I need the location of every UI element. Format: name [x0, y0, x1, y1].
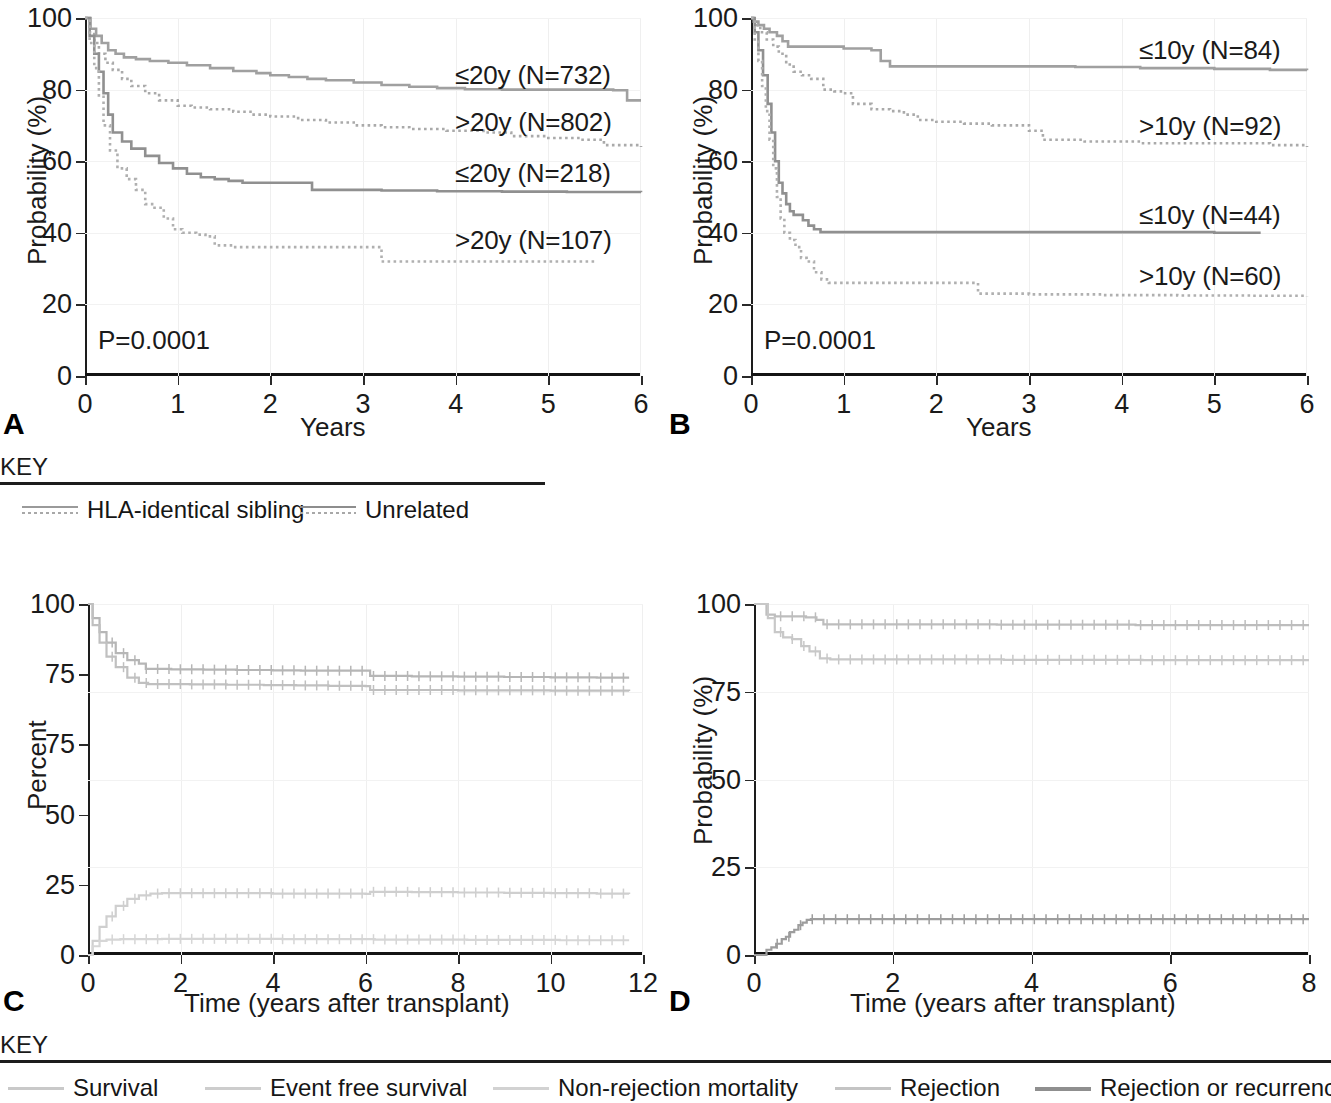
- x-tick: [181, 955, 183, 964]
- x-tick-label: 8: [1301, 968, 1316, 999]
- key-item-label: Rejection: [900, 1074, 1000, 1102]
- panel-b-p-value: P=0.0001: [764, 325, 876, 356]
- y-tick: [76, 376, 85, 378]
- x-tick-label: 0: [80, 968, 95, 999]
- x-tick: [844, 376, 846, 385]
- y-tick: [79, 955, 88, 957]
- key-item-survival: Survival: [8, 1071, 158, 1103]
- y-tick-label: 75: [711, 676, 741, 707]
- y-tick-label: 75: [45, 659, 75, 690]
- panel-c-letter: C: [3, 984, 25, 1018]
- censor-marks: [781, 611, 1304, 630]
- x-tick: [88, 955, 90, 964]
- x-tick: [366, 955, 368, 964]
- panel-b-series-label-2: ≤10y (N=44): [1139, 200, 1280, 231]
- x-tick: [85, 376, 87, 385]
- key-block-bottom: KEY Survival Event free survival Non-rej…: [0, 1033, 1331, 1103]
- panel-a-series-label-0: ≤20y (N=732): [455, 60, 611, 91]
- y-tick-label: 60: [42, 146, 72, 177]
- panel-b-curves: [751, 18, 1307, 376]
- x-tick: [1307, 376, 1309, 385]
- curve-rejection: [88, 892, 629, 955]
- x-tick-label: 0: [77, 389, 92, 420]
- curve-survival: [754, 604, 1309, 625]
- line-swatch-survival-icon: [8, 1081, 64, 1095]
- panel-a-p-value: P=0.0001: [98, 325, 210, 356]
- x-tick: [273, 955, 275, 964]
- key-row: Survival Event free survival Non-rejecti…: [0, 1071, 1331, 1103]
- panel-a: Probability (%) 100 80 60 40 20 0 0: [0, 0, 665, 455]
- key-item-non-rejection-mortality: Non-rejection mortality: [493, 1071, 798, 1103]
- key-item-rejection: Rejection: [835, 1071, 1000, 1103]
- panel-d: Probability (%) 100 75 50 25 0 0 2 4 6 8: [666, 560, 1331, 1030]
- x-tick: [1309, 955, 1311, 964]
- x-tick-label: 2: [929, 389, 944, 420]
- key-item-unrelated: Unrelated: [300, 493, 469, 527]
- y-tick-label: 20: [708, 289, 738, 320]
- y-tick-label: 80: [708, 74, 738, 105]
- y-tick-label: 0: [723, 361, 738, 392]
- x-tick: [641, 376, 643, 385]
- panel-c-x-axis-title: Time (years after transplant): [184, 988, 510, 1019]
- y-tick-label: 50: [45, 799, 75, 830]
- y-tick-label: 100: [696, 589, 741, 620]
- y-tick: [742, 90, 751, 92]
- y-tick: [745, 780, 754, 782]
- panel-b-series-label-1: >10y (N=92): [1139, 111, 1281, 142]
- x-tick-label: 0: [743, 389, 758, 420]
- key-divider: [0, 482, 545, 485]
- curve-event-free-survival: [754, 604, 1309, 660]
- x-tick: [751, 376, 753, 385]
- y-tick: [745, 604, 754, 606]
- y-tick-label: 25: [711, 852, 741, 883]
- panel-a-series-label-1: >20y (N=802): [455, 107, 612, 138]
- line-swatch-solid-dotted-icon: [22, 503, 78, 517]
- panel-b-series-label-3: >10y (N=60): [1139, 261, 1281, 292]
- y-tick: [745, 867, 754, 869]
- key-item-label: Event free survival: [270, 1074, 467, 1102]
- panel-d-curves: [754, 604, 1309, 955]
- x-tick-label: 1: [836, 389, 851, 420]
- key-item-label: Unrelated: [365, 496, 469, 524]
- key-title: KEY: [0, 455, 545, 479]
- x-tick: [1029, 376, 1031, 385]
- y-tick: [76, 304, 85, 306]
- x-tick-label: 10: [535, 968, 565, 999]
- y-tick: [79, 744, 88, 746]
- y-tick: [79, 885, 88, 887]
- panel-a-plot-area: 100 80 60 40 20 0 0 1 2 3 4 5 6 ≤20y (N=…: [85, 18, 641, 376]
- x-tick-label: 6: [1299, 389, 1314, 420]
- panel-d-letter: D: [669, 984, 691, 1018]
- key-item-rejection-or-recurrence: Rejection or recurrence: [1035, 1071, 1331, 1103]
- key-divider: [0, 1060, 1331, 1063]
- y-tick: [742, 376, 751, 378]
- key-item-event-free-survival: Event free survival: [205, 1071, 467, 1103]
- key-item-label: Non-rejection mortality: [558, 1074, 798, 1102]
- censor-marks: [112, 652, 623, 696]
- panel-c: Percent 100 75 75 50 25 0 0 2 4 6: [0, 560, 665, 1030]
- x-tick-label: 1: [170, 389, 185, 420]
- y-tick-label: 40: [708, 217, 738, 248]
- y-tick: [742, 304, 751, 306]
- x-tick: [754, 955, 756, 964]
- panel-b-series-label-0: ≤10y (N=84): [1139, 35, 1280, 66]
- panel-d-x-axis-title: Time (years after transplant): [850, 988, 1176, 1019]
- panel-d-plot-area: 100 75 50 25 0 0 2 4 6 8: [754, 604, 1309, 955]
- y-tick-label: 100: [27, 3, 72, 34]
- panel-c-plot-area: 100 75 75 50 25 0 0 2 4 6 8 10 12: [88, 604, 643, 955]
- y-tick-label: 40: [42, 217, 72, 248]
- y-tick: [742, 233, 751, 235]
- x-tick-label: 4: [448, 389, 463, 420]
- y-tick-label: 75: [45, 729, 75, 760]
- key-item-hla-identical-sibling: HLA-identical sibling: [22, 493, 304, 527]
- y-tick-label: 0: [57, 361, 72, 392]
- panel-b-letter: B: [669, 407, 691, 441]
- key-item-label: Rejection or recurrence: [1100, 1074, 1331, 1102]
- y-tick: [79, 674, 88, 676]
- key-item-label: Survival: [73, 1074, 158, 1102]
- x-tick: [1122, 376, 1124, 385]
- y-tick-label: 0: [60, 940, 75, 971]
- y-tick-label: 60: [708, 146, 738, 177]
- x-tick: [1214, 376, 1216, 385]
- x-tick-label: 2: [263, 389, 278, 420]
